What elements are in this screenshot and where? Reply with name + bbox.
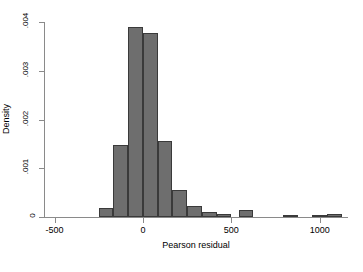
x-axis-tick xyxy=(55,218,56,223)
plot-area xyxy=(44,22,348,217)
histogram-bar xyxy=(172,190,187,217)
y-axis-tick-label: .001 xyxy=(0,162,36,174)
x-axis-tick xyxy=(231,218,232,223)
y-axis-tick xyxy=(39,22,44,23)
x-axis-tick xyxy=(143,218,144,223)
x-axis-tick-label: -500 xyxy=(46,225,64,235)
y-axis-tick-label: .003 xyxy=(0,65,36,77)
x-axis-title: Pearson residual xyxy=(44,240,348,250)
histogram-bar xyxy=(239,210,254,217)
histogram-bar xyxy=(113,145,128,217)
y-axis-tick xyxy=(39,217,44,218)
y-axis-tick xyxy=(39,71,44,72)
histogram-bar xyxy=(128,27,143,217)
x-axis-tick-label: 1000 xyxy=(310,225,330,235)
y-axis-line xyxy=(44,22,45,218)
x-axis-tick-label: 0 xyxy=(140,225,145,235)
y-axis-tick xyxy=(39,120,44,121)
histogram-bar xyxy=(99,208,114,217)
y-axis-tick xyxy=(39,168,44,169)
histogram-figure: 0.001.002.003.004 -50005001000 Density P… xyxy=(0,0,363,272)
histogram-bar xyxy=(143,33,158,217)
x-axis-line xyxy=(44,217,348,218)
y-axis-tick-label: .004 xyxy=(0,16,36,28)
histogram-bar xyxy=(158,141,173,217)
y-axis-tick-label: 0 xyxy=(0,211,36,223)
y-axis-title: Density xyxy=(1,97,11,141)
x-axis-tick-label: 500 xyxy=(224,225,239,235)
histogram-bar xyxy=(187,206,202,217)
x-axis-tick xyxy=(320,218,321,223)
